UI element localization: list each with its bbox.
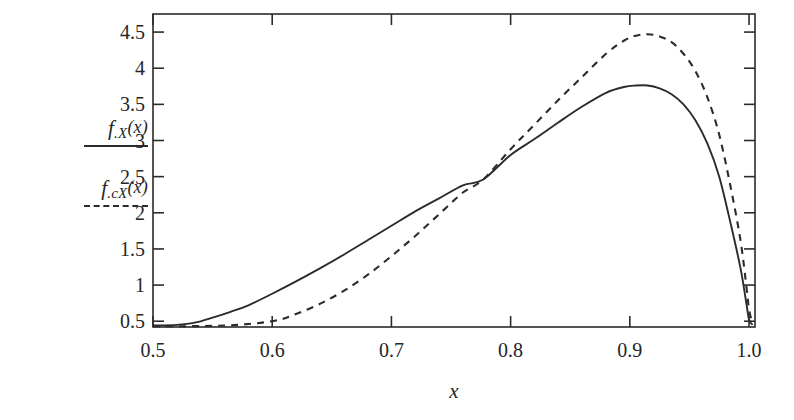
y-tick-label: 3.5 [95, 93, 145, 116]
chart-figure: f.X(x) f.cX(x) 0.511.522.533.544.50.50.6… [0, 0, 794, 420]
y-tick-label: 0.5 [95, 310, 145, 333]
x-tick-label: 0.9 [617, 339, 642, 362]
series-curve-2 [153, 34, 753, 326]
axis-ticks [153, 14, 755, 327]
y-tick-label: 2.5 [95, 165, 145, 188]
y-tick-label: 1.5 [95, 237, 145, 260]
y-tick-label: 2 [95, 201, 145, 224]
y-tick-label: 1 [95, 274, 145, 297]
x-tick-label: 1.0 [737, 339, 762, 362]
y-tick-label: 4 [95, 57, 145, 80]
x-tick-label: 0.5 [141, 339, 166, 362]
x-tick-label: 0.8 [498, 339, 523, 362]
series-curve-1 [153, 85, 753, 325]
axis-frame [153, 14, 755, 327]
x-tick-label: 0.6 [260, 339, 285, 362]
data-series-layer [153, 34, 753, 326]
x-tick-label: 0.7 [379, 339, 404, 362]
y-tick-label: 3 [95, 129, 145, 152]
x-axis-title: x [449, 379, 458, 404]
y-tick-label: 4.5 [95, 21, 145, 44]
